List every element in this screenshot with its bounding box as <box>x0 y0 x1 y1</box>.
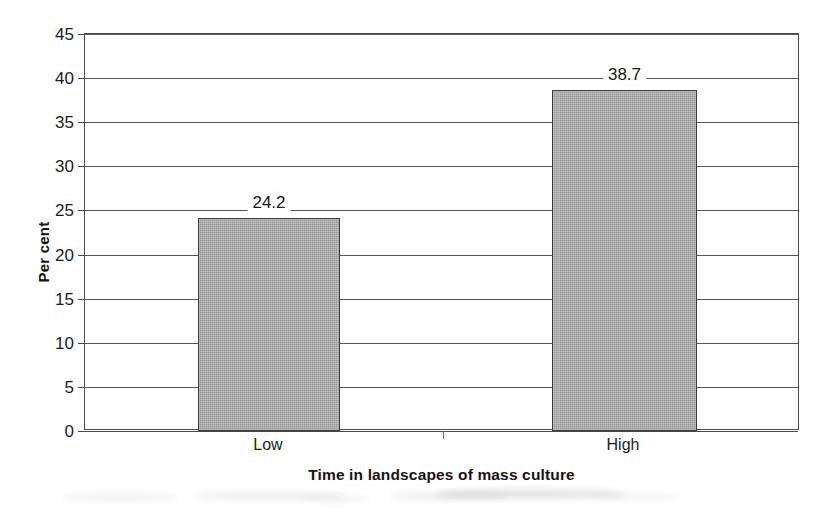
y-axis-tick-10 <box>78 343 85 344</box>
scan-artifact <box>590 494 680 500</box>
y-axis-tick-40 <box>78 78 85 79</box>
y-axis-tick-label-40: 40 <box>55 70 74 87</box>
y-axis-tick-0 <box>78 431 85 432</box>
x-axis-label-high: High <box>607 436 640 454</box>
y-axis-tick-label-25: 25 <box>55 202 74 219</box>
bar-low <box>198 218 340 431</box>
y-axis-tick-label-0: 0 <box>65 423 74 440</box>
scan-artifact <box>196 492 346 500</box>
y-axis-tick-15 <box>78 299 85 300</box>
y-axis-tick-35 <box>78 122 85 123</box>
y-axis-tick-label-45: 45 <box>55 26 74 43</box>
y-axis-tick-label-30: 30 <box>55 158 74 175</box>
scan-artifact <box>436 489 626 499</box>
gridline-40 <box>85 78 798 79</box>
y-axis-tick-20 <box>78 255 85 256</box>
y-axis-tick-45 <box>78 34 85 35</box>
y-axis-tick-label-35: 35 <box>55 114 74 131</box>
gridline-0 <box>85 431 798 432</box>
y-axis-tick-30 <box>78 166 85 167</box>
bar-value-label-high: 38.7 <box>603 66 646 83</box>
plot-area: 05101520253035404524.238.7 <box>84 33 799 430</box>
x-axis-midpoint-tick <box>443 431 444 439</box>
scan-artifact <box>60 494 180 501</box>
y-axis-tick-25 <box>78 210 85 211</box>
y-axis-tick-5 <box>78 387 85 388</box>
y-axis-tick-label-15: 15 <box>55 290 74 307</box>
bar-value-label-low: 24.2 <box>247 194 290 211</box>
bar-high <box>552 90 697 431</box>
y-axis-title: Per cent <box>35 222 52 283</box>
y-axis-tick-label-10: 10 <box>55 334 74 351</box>
bar-chart: Per cent 05101520253035404524.238.7 Low … <box>0 0 824 508</box>
y-axis-tick-label-20: 20 <box>55 246 74 263</box>
x-axis-label-low: Low <box>253 436 282 454</box>
y-axis-tick-label-5: 5 <box>65 378 74 395</box>
scan-artifact <box>300 496 370 502</box>
gridline-45 <box>85 34 798 35</box>
x-axis-title: Time in landscapes of mass culture <box>84 466 799 484</box>
scan-artifact <box>390 492 510 500</box>
